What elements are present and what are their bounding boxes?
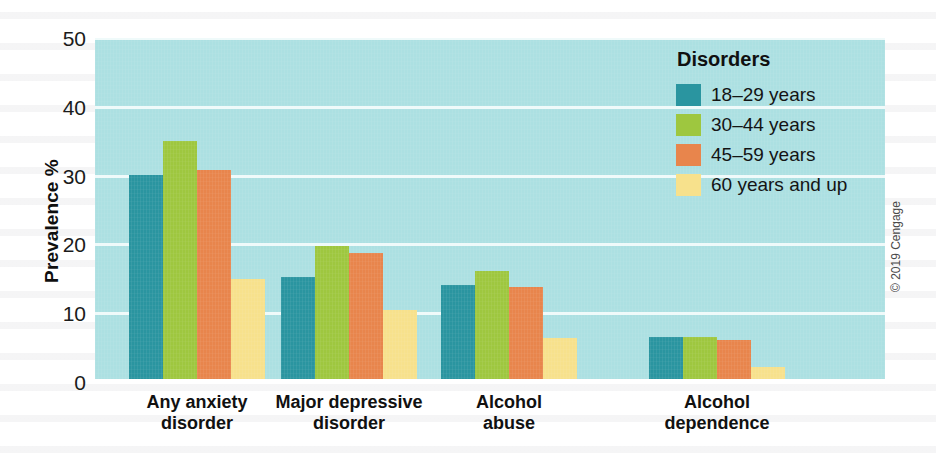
y-axis-tick-labels: 01020304050 xyxy=(0,0,86,467)
category-label-line: abuse xyxy=(404,413,614,434)
bar-group xyxy=(281,38,417,382)
bar xyxy=(717,340,751,382)
y-tick-50: 50 xyxy=(8,28,86,49)
bar xyxy=(163,141,197,382)
legend-entry: 30–44 years xyxy=(676,110,847,140)
y-tick-20: 20 xyxy=(8,234,86,255)
bar xyxy=(349,253,383,382)
copyright-credit: © 2019 Cengage xyxy=(889,201,903,292)
y-tick-10: 10 xyxy=(8,303,86,324)
bar-chart-figure: Prevalence % 01020304050 Any anxietydiso… xyxy=(0,0,936,467)
legend-swatch-icon xyxy=(676,114,701,136)
bar xyxy=(383,310,417,382)
bar xyxy=(315,246,349,382)
bar xyxy=(231,279,265,382)
legend-entries: 18–29 years30–44 years45–59 years60 year… xyxy=(676,80,847,200)
category-label: Alcoholdependence xyxy=(612,392,822,434)
bar xyxy=(281,277,315,382)
bar xyxy=(683,337,717,382)
legend-title: Disorders xyxy=(676,48,847,71)
category-label-line: Alcohol xyxy=(404,392,614,413)
bar-group xyxy=(441,38,577,382)
category-label-line: Alcohol xyxy=(612,392,822,413)
bar xyxy=(197,170,231,382)
legend-label: 45–59 years xyxy=(711,144,816,166)
bar-group xyxy=(129,38,265,382)
legend-label: 60 years and up xyxy=(711,174,847,196)
legend-entry: 60 years and up xyxy=(676,170,847,200)
bar xyxy=(509,287,543,382)
y-tick-30: 30 xyxy=(8,165,86,186)
y-tick-40: 40 xyxy=(8,96,86,117)
bar xyxy=(441,285,475,382)
bar xyxy=(649,337,683,382)
legend-entry: 18–29 years xyxy=(676,80,847,110)
y-tick-0: 0 xyxy=(8,372,86,393)
bar xyxy=(475,271,509,382)
legend-entry: 45–59 years xyxy=(676,140,847,170)
legend: Disorders 18–29 years30–44 years45–59 ye… xyxy=(676,48,847,200)
legend-label: 18–29 years xyxy=(711,84,816,106)
legend-label: 30–44 years xyxy=(711,114,816,136)
legend-swatch-icon xyxy=(676,144,701,166)
x-axis-baseline xyxy=(95,379,885,382)
legend-swatch-icon xyxy=(676,84,701,106)
legend-swatch-icon xyxy=(676,174,701,196)
bar xyxy=(129,175,163,382)
category-label: Alcoholabuse xyxy=(404,392,614,434)
category-label-line: dependence xyxy=(612,413,822,434)
bar xyxy=(543,338,577,382)
